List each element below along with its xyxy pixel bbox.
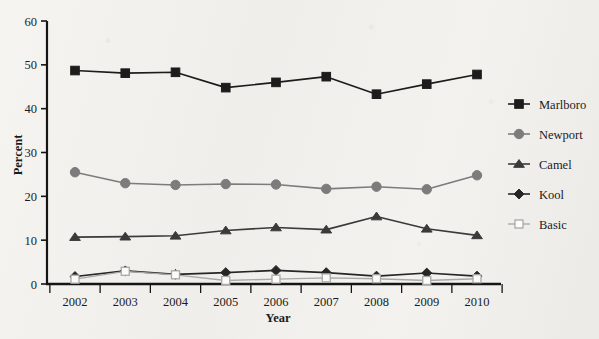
legend-label: Basic (539, 218, 567, 232)
series-camel (70, 212, 483, 240)
data-point-marker (171, 180, 180, 189)
data-point-marker (322, 184, 331, 193)
y-tick-label: 30 (25, 146, 38, 160)
data-point-marker (371, 212, 382, 220)
y-tick-label: 10 (25, 234, 38, 248)
data-point-marker (70, 168, 79, 177)
y-tick-label: 60 (25, 15, 38, 29)
data-point-marker (322, 72, 331, 81)
legend-label: Camel (539, 158, 572, 172)
data-point-marker (171, 68, 180, 77)
data-point-marker (121, 178, 130, 187)
legend-item-camel[interactable]: Camel (508, 158, 572, 172)
data-point-marker (222, 276, 230, 284)
chart-canvas: 0102030405060 20022003200420052006200720… (0, 0, 599, 339)
legend-label: Kool (539, 188, 565, 202)
data-point-marker (121, 69, 130, 78)
y-tick-label: 40 (25, 102, 38, 116)
data-point-marker (473, 70, 482, 79)
x-tick-label: 2009 (414, 295, 439, 309)
x-axis-title: Year (266, 311, 291, 325)
data-point-marker (473, 275, 481, 283)
data-point-marker (172, 271, 180, 279)
legend-label: Newport (539, 128, 583, 142)
data-point-marker (515, 220, 523, 228)
legend-item-marlboro[interactable]: Marlboro (508, 98, 586, 112)
data-point-marker (272, 275, 280, 283)
y-tick-label: 0 (31, 278, 37, 292)
data-point-marker (423, 276, 431, 284)
x-axis-ticks: 200220032004200520062007200820092010 (50, 284, 502, 309)
series-newport (70, 168, 481, 194)
x-tick-label: 2008 (364, 295, 389, 309)
line-chart: 0102030405060 20022003200420052006200720… (0, 0, 599, 339)
x-tick-label: 2010 (465, 295, 490, 309)
series-marlboro (71, 66, 482, 98)
x-tick-label: 2006 (264, 295, 289, 309)
legend-item-newport[interactable]: Newport (508, 128, 583, 142)
data-point-marker (514, 129, 523, 138)
series-layer (70, 66, 483, 284)
data-point-marker (372, 182, 381, 191)
data-point-marker (472, 171, 481, 180)
data-point-marker (71, 275, 79, 283)
data-point-marker (422, 80, 431, 89)
x-tick-label: 2002 (63, 295, 88, 309)
x-tick-label: 2005 (213, 295, 238, 309)
data-point-marker (272, 78, 281, 87)
data-point-marker (121, 267, 129, 275)
data-point-marker (221, 83, 230, 92)
data-point-marker (373, 275, 381, 283)
x-tick-label: 2007 (314, 295, 339, 309)
data-point-marker (422, 185, 431, 194)
data-point-marker (515, 100, 524, 109)
chart-legend: MarlboroNewportCamelKoolBasic (508, 98, 586, 232)
legend-label: Marlboro (539, 98, 586, 112)
legend-item-kool[interactable]: Kool (508, 188, 565, 202)
data-point-marker (514, 189, 524, 199)
x-tick-label: 2003 (113, 295, 138, 309)
x-tick-label: 2004 (163, 295, 189, 309)
data-point-marker (322, 274, 330, 282)
y-tick-label: 50 (25, 58, 38, 72)
data-point-marker (221, 179, 230, 188)
y-tick-label: 20 (25, 190, 38, 204)
data-point-marker (372, 90, 381, 99)
data-point-marker (71, 66, 80, 75)
data-point-marker (271, 180, 280, 189)
y-axis-ticks: 0102030405060 (25, 15, 48, 292)
axis-lines (46, 21, 501, 284)
legend-item-basic[interactable]: Basic (508, 218, 567, 232)
data-point-marker (271, 265, 281, 275)
y-axis-title: Percent (11, 134, 25, 176)
